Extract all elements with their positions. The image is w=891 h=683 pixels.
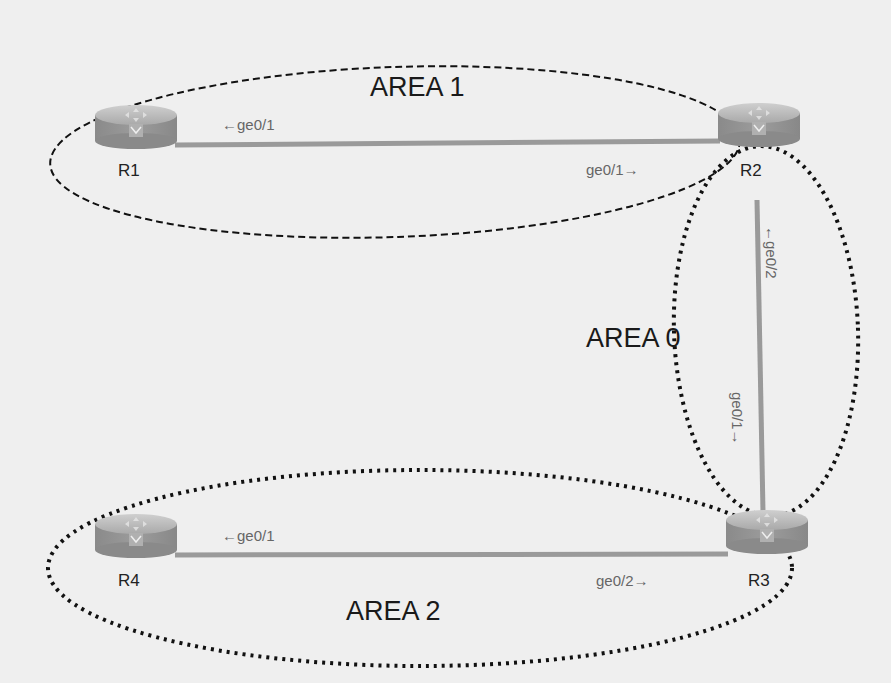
router-r4-label: R4	[118, 571, 140, 590]
r2-ge02-interface-label: ←ge0/2	[763, 226, 780, 279]
router-r3-icon[interactable]	[726, 510, 808, 554]
area2-boundary	[48, 470, 792, 666]
link-r1-r2	[175, 141, 720, 145]
area0-label: AREA 0	[586, 323, 681, 353]
router-r2-icon[interactable]	[718, 103, 800, 147]
area0-boundary	[668, 143, 865, 519]
r1-interface-label: ←ge0/1	[222, 116, 275, 133]
router-r2-label: R2	[740, 161, 762, 180]
r2-ge01-interface-label: ge0/1→	[586, 161, 639, 178]
link-r4-r3	[175, 554, 728, 555]
ospf-topology-diagram: AREA 1 AREA 0 AREA 2 R1 R2 R3 R4 ←ge0/1 …	[0, 0, 891, 683]
area1-label: AREA 1	[370, 72, 465, 102]
r4-interface-label: ←ge0/1	[222, 527, 275, 544]
r3-ge02-interface-label: ge0/2→	[596, 572, 649, 589]
router-r4-icon[interactable]	[95, 514, 177, 558]
r3-ge01-interface-label: ge0/1→	[729, 392, 746, 445]
router-r1-icon[interactable]	[95, 105, 177, 149]
router-r3-label: R3	[748, 571, 770, 590]
router-r1-label: R1	[118, 161, 140, 180]
link-r2-r3	[757, 200, 763, 512]
area2-label: AREA 2	[346, 596, 441, 626]
